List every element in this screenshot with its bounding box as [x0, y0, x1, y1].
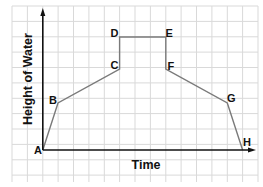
point-label-g: G [227, 92, 236, 104]
point-label-c: C [111, 59, 119, 71]
point-label-b: B [49, 94, 57, 106]
point-label-e: E [166, 27, 173, 39]
axes [40, 8, 256, 153]
water-height-line [43, 37, 243, 150]
point-label-f: F [168, 60, 175, 72]
y-axis-arrow-icon [40, 8, 45, 16]
point-label-d: D [111, 27, 119, 39]
y-axis-label: Height of Water [21, 33, 35, 125]
x-axis-arrow-icon [248, 148, 256, 153]
water-height-chart: A B C D E F G H Time Height of Water [0, 0, 263, 187]
point-label-a: A [34, 144, 42, 156]
point-label-h: H [243, 136, 251, 148]
x-axis-label: Time [132, 158, 161, 172]
